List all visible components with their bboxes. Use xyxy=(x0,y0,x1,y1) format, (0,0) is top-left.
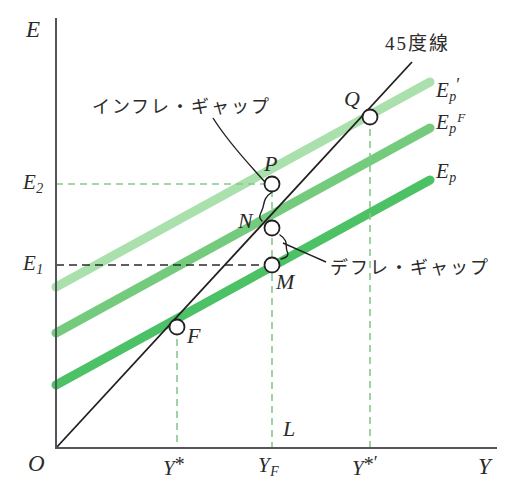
x-tick-ystar2-prime: ′ xyxy=(374,453,378,473)
point-N xyxy=(265,221,280,236)
line45-label: 45度線 xyxy=(385,34,450,53)
point-P xyxy=(265,177,280,192)
curve-ep-f-base: E xyxy=(436,110,449,134)
y-tick-e1-sub: 1 xyxy=(36,262,43,277)
point-label-P: P xyxy=(264,153,277,175)
x-tick-label-ystar: Y* xyxy=(163,455,185,479)
y-tick-label-e1: E1 xyxy=(23,253,43,277)
annotation-inflation-gap: インフレ・ギャップ xyxy=(92,98,271,116)
y-tick-e2-base: E xyxy=(23,170,36,194)
annotation-deflation-gap: デフレ・ギャップ xyxy=(330,259,490,277)
y-tick-e1-base: E xyxy=(23,251,36,275)
point-label-Q: Q xyxy=(344,88,360,110)
y-tick-label-e2: E2 xyxy=(23,172,43,196)
curve-ep-f-sub: p xyxy=(449,121,456,136)
curve-label-ep: Ep xyxy=(436,161,456,185)
inflation-gap-leader xyxy=(213,118,265,182)
curve-ep-prime-base: E xyxy=(436,78,449,102)
x-tick-label-ystar-prime: Y*′ xyxy=(352,455,378,479)
point-Q xyxy=(363,110,378,125)
y-axis-label: E xyxy=(26,18,40,41)
curve-ep-base: E xyxy=(436,159,449,183)
x-tick-ystar2-mark: * xyxy=(364,453,374,475)
curve-label-ep-prime: Ep′ xyxy=(436,77,460,104)
curve-label-ep-f: EpF xyxy=(436,111,465,136)
point-F xyxy=(170,320,185,335)
x-axis-label: Y xyxy=(478,455,491,478)
point-label-F: F xyxy=(187,325,200,347)
curve-ep-sub: p xyxy=(449,170,456,185)
x-tick-yf-sub: F xyxy=(270,464,278,479)
x-tick-label-yf: YF xyxy=(258,455,279,479)
x-tick-ystar-mark: * xyxy=(175,453,185,475)
curve-ep-f-sup: F xyxy=(457,110,465,125)
curve-ep-prime-mark: ′ xyxy=(456,75,460,95)
point-label-N: N xyxy=(238,210,253,232)
x-tick-ystar2-base: Y xyxy=(352,456,364,480)
x-tick-yf-base: Y xyxy=(258,453,270,477)
expenditure-curves xyxy=(56,82,430,385)
origin-label: O xyxy=(28,452,45,475)
axis-note-l: L xyxy=(283,418,295,440)
x-tick-ystar-base: Y xyxy=(163,456,175,480)
diagram-svg xyxy=(0,0,520,504)
point-label-M: M xyxy=(276,271,294,293)
figure-canvas: E Y O E2 E1 Y* YF Y*′ L 45度線 Ep′ EpF Ep … xyxy=(0,0,520,504)
y-tick-e2-sub: 2 xyxy=(36,181,43,196)
